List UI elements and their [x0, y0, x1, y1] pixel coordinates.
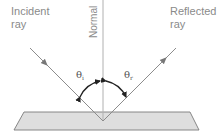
angle-incidence-arc	[80, 81, 100, 97]
angle-reflection-arc	[106, 81, 126, 97]
normal-label: Normal	[88, 6, 99, 38]
reflected-ray-label: Reflected ray	[170, 5, 219, 30]
incident-ray-arrow-icon	[30, 48, 47, 65]
reflecting-surface	[14, 112, 199, 130]
theta-r-label: θr	[124, 69, 133, 81]
theta-i-label: θi	[76, 69, 84, 81]
incident-ray-label: Incident ray	[11, 5, 53, 30]
reflected-ray-arrow-icon	[150, 58, 166, 74]
law-of-reflection-diagram: Incident ray Reflected ray Normal θi θr	[0, 0, 219, 139]
